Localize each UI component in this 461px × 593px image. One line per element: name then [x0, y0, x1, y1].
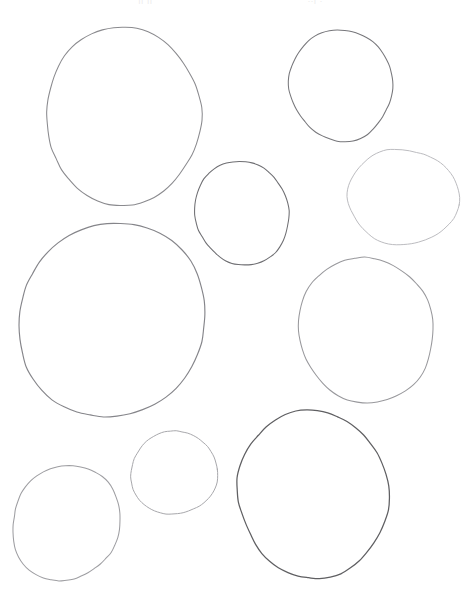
circle-top-right-medium: Circle 2: [288, 30, 393, 142]
circle-top-left-large: Circle 1: [47, 27, 203, 205]
circle-left-largest: Circle 5: [19, 223, 205, 417]
circle-right-middle: Circle 6: [298, 257, 433, 403]
page-canvas: || || ' ..| . Circle 1Circle 2Circle 3Ci…: [0, 0, 461, 593]
circle-right-upper-small-outline: Circle 4: [347, 149, 460, 244]
circle-center-small-outline: Circle 3: [195, 161, 290, 264]
circle-center-small: Circle 3: [195, 161, 290, 264]
circle-right-upper-small: Circle 4: [347, 149, 460, 244]
circle-right-middle-outline: Circle 6: [298, 257, 433, 403]
circle-top-right-medium-outline: Circle 2: [288, 30, 393, 142]
circle-bottom-left-medium: Circle 9: [13, 466, 120, 581]
circles-drawing: Circle 1Circle 2Circle 3Circle 4Circle 5…: [0, 0, 461, 593]
circle-bottom-right-large: Circle 7: [237, 410, 390, 579]
circle-bottom-left-medium-outline: Circle 9: [13, 466, 120, 581]
circle-bottom-center-small: Circle 8: [131, 431, 218, 514]
circle-bottom-right-large-outline: Circle 7: [237, 410, 390, 579]
circle-top-left-large-outline: Circle 1: [47, 27, 203, 205]
circle-left-largest-outline: Circle 5: [19, 223, 205, 417]
circle-bottom-center-small-outline: Circle 8: [131, 431, 218, 514]
